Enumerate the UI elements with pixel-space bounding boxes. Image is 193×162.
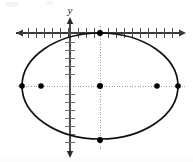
point-right-vertex — [175, 83, 181, 89]
point-bottom-co-vertex — [97, 137, 103, 143]
point-center — [97, 83, 103, 89]
y-axis-bottom-arrow — [67, 151, 73, 158]
point-left-vertex — [19, 83, 25, 89]
y-axis-top-arrow — [67, 17, 73, 24]
coordinate-plane: y — [0, 0, 193, 162]
point-left-focus — [38, 83, 44, 89]
ellipse-graph-figure: y — [0, 0, 193, 162]
point-right-focus — [154, 83, 160, 89]
y-axis-label: y — [67, 4, 73, 16]
point-top-co-vertex — [97, 30, 103, 36]
x-axis-right-arrow — [179, 30, 186, 37]
x-axis-left-arrow — [16, 30, 23, 37]
